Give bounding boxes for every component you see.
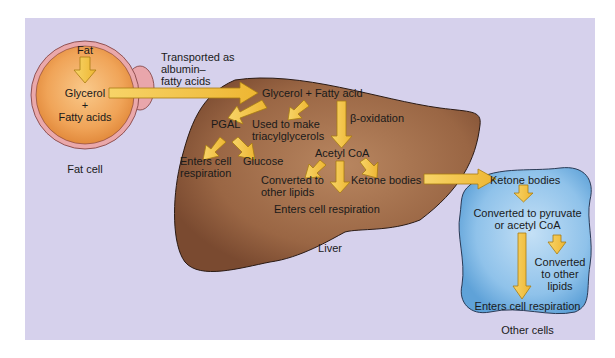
enters-cell-respiration-label-1: Enters cell — [180, 155, 231, 167]
fat-label: Fat — [70, 44, 100, 56]
fat-cell-caption: Fat cell — [50, 163, 120, 175]
acetyl-coa-label: Acetyl CoA — [315, 147, 369, 159]
used-to-make-label-1: Used to make — [252, 118, 320, 130]
transport-label-1: Transported as — [161, 51, 235, 63]
converted-to-other-lipids-label-1: Converted to — [261, 174, 324, 186]
ketone-bodies-other-label: Ketone bodies — [490, 174, 560, 186]
transport-label-2: albumin– — [161, 63, 206, 75]
beta-oxidation-label: β-oxidation — [350, 112, 404, 124]
converted-to-other-lipids-label-2: other lipids — [261, 186, 314, 198]
liver-caption: Liver — [305, 242, 355, 254]
glycerol-label: Glycerol — [55, 87, 115, 99]
converted-pyruvate-label-1: Converted to pyruvate — [465, 207, 590, 219]
converted-other-lipids-label-3: lipids — [530, 280, 590, 292]
converted-other-lipids-label-2: to other — [530, 268, 590, 280]
other-cells-caption: Other cells — [490, 324, 565, 336]
pgal-label: PGAL — [211, 118, 240, 130]
ketone-bodies-liver-label: Ketone bodies — [351, 174, 421, 186]
enters-cell-respiration-other-label: Enters cell respiration — [465, 300, 590, 312]
enters-cell-respiration-label-2: respiration — [180, 167, 231, 179]
glucose-label: Glucose — [243, 155, 283, 167]
glycerol-fatty-acid-label: Glycerol + Fatty acid — [262, 87, 363, 99]
used-to-make-label-2: triacylglycerols — [252, 130, 324, 142]
fatty-acids-label: Fatty acids — [48, 111, 122, 123]
converted-other-lipids-label-1: Converted — [530, 256, 590, 268]
enters-cell-respiration-liver-label: Enters cell respiration — [274, 203, 380, 215]
converted-pyruvate-label-2: or acetyl CoA — [465, 219, 590, 231]
plus-label: + — [75, 99, 95, 111]
fat-metabolism-diagram: Fat Glycerol + Fatty acids Fat cell Tran… — [0, 0, 615, 358]
transport-label-3: fatty acids — [161, 75, 211, 87]
